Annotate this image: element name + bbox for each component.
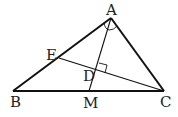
label-d: D bbox=[83, 67, 95, 85]
segment-ab bbox=[13, 18, 111, 91]
geometry-diagram: A B C E D M bbox=[0, 0, 178, 117]
label-m: M bbox=[83, 94, 98, 112]
segment-ce bbox=[59, 58, 164, 91]
inner-lines bbox=[59, 18, 164, 91]
label-e: E bbox=[46, 46, 57, 64]
label-a: A bbox=[105, 1, 117, 19]
segment-ca bbox=[111, 18, 164, 91]
label-c: C bbox=[160, 93, 171, 111]
angle-bisector-arc-right bbox=[109, 26, 117, 30]
label-b: B bbox=[10, 93, 21, 111]
